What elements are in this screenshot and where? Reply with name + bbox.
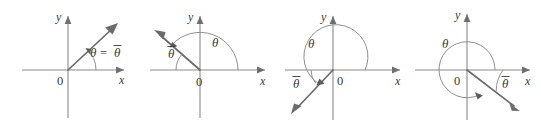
y-axis-label: y: [55, 10, 62, 24]
figure-root: x y 0 θ = θ x y 0 θ θ: [0, 0, 541, 130]
y-axis-label: y: [320, 10, 327, 24]
panel-4-quadrant-IV: x y 0 θ θ: [410, 0, 541, 130]
origin-label: 0: [57, 74, 63, 88]
terminal-ray: [160, 35, 200, 70]
origin-label: 0: [196, 75, 202, 89]
y-axis-arrowhead: [197, 16, 204, 24]
terminal-ray: [297, 70, 333, 108]
theta-bar-label: θ: [168, 46, 175, 61]
theta-bar-arc: [176, 54, 183, 70]
x-axis-label: x: [118, 73, 125, 87]
x-axis-arrowhead: [392, 67, 400, 74]
y-axis-label: y: [454, 8, 461, 22]
y-axis-arrowhead: [330, 16, 337, 24]
theta-label: θ: [212, 35, 219, 50]
x-axis-label: x: [524, 74, 531, 88]
y-axis-arrowhead: [65, 16, 72, 24]
x-axis-arrowhead: [522, 67, 530, 74]
theta-label: θ: [442, 36, 449, 51]
panel-3-quadrant-III: x y 0 θ θ: [275, 0, 410, 130]
y-axis-label: y: [187, 10, 194, 24]
theta-bar-label: θ: [293, 76, 300, 91]
equals-sign: =: [100, 46, 107, 60]
theta-bar-label: θ: [502, 76, 509, 91]
x-axis-label: x: [394, 74, 401, 88]
theta-arc: [304, 25, 368, 84]
y-axis-arrowhead: [464, 14, 471, 22]
panel-1-quadrant-I: x y 0 θ = θ: [0, 0, 140, 130]
x-axis-arrowhead: [257, 67, 265, 74]
theta-arc: [171, 32, 238, 70]
origin-label: 0: [454, 74, 460, 88]
theta-bar-label: θ: [114, 45, 121, 60]
x-axis-label: x: [259, 74, 266, 88]
theta-label: θ: [90, 45, 97, 60]
panel-2-quadrant-II: x y 0 θ θ: [140, 0, 275, 130]
origin-label: 0: [337, 74, 343, 88]
theta-label: θ: [308, 36, 315, 51]
terminal-ray-arrowhead: [509, 103, 520, 111]
